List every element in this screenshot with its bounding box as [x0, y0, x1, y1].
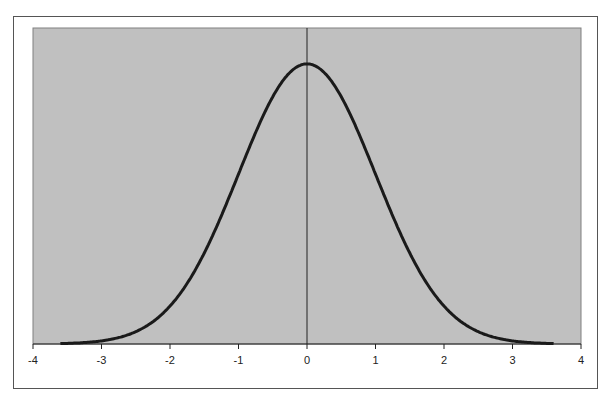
x-tick-label: -3 [97, 354, 107, 366]
x-tick-label: 0 [304, 354, 310, 366]
x-tick-label: 3 [509, 354, 515, 366]
x-tick-label: -1 [234, 354, 244, 366]
x-tick-label: -2 [165, 354, 175, 366]
x-tick-label: 1 [372, 354, 378, 366]
normal-curve-chart: -4-3-2-101234 [0, 0, 613, 403]
x-tick-label: 4 [578, 354, 584, 366]
x-axis-ticks: -4-3-2-101234 [28, 344, 584, 366]
x-tick-label: 2 [441, 354, 447, 366]
x-tick-label: -4 [28, 354, 38, 366]
